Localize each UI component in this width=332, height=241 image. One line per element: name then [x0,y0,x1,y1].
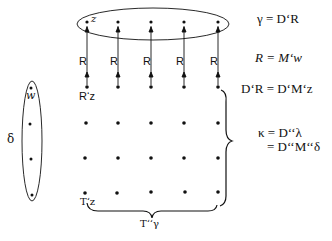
equation-r: R = M‘w [255,51,302,64]
equation-kappa: κ = D‘‘λ [258,126,302,139]
arrow-label-3: R [143,56,151,67]
label-z: z [91,14,96,24]
equation-kappa-cont: = D‘‘M‘‘δ [267,140,320,153]
arrow-label-1: R [79,56,87,67]
label-w: w [26,90,35,101]
top-ellipse [77,8,229,40]
source-label: R‘z [79,91,95,102]
right-brace [220,90,232,206]
bottom-brace-label: T‘‘γ [140,219,159,229]
arrow-label-4: R [176,56,184,67]
equation-dr: D‘R = D‘M‘z [241,82,313,95]
equation-gamma: γ = D‘R [257,12,299,25]
bottom-left-label: T‘z [80,197,95,207]
arrows [85,26,220,85]
arrow-label-2: R [110,56,118,67]
grid-dots [29,20,220,196]
label-delta: δ [7,133,14,145]
diagram-canvas [0,0,332,241]
bottom-brace [87,203,217,218]
arrow-label-5: R [210,56,218,67]
